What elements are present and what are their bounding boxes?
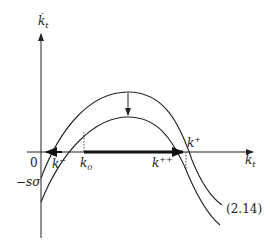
y-axis-label: ·kt — [38, 15, 49, 30]
lower-curve — [41, 117, 220, 225]
k-minus-label: k− — [52, 157, 66, 170]
x-axis-label: kt — [245, 154, 256, 169]
origin-label: 0 — [30, 157, 38, 169]
phase-diagram: ·kt kt 0 −sσ k− k0 k+ k++ (2.14) — [0, 0, 270, 243]
k-plus-label: k+ — [187, 136, 201, 149]
k0-label: k0 — [80, 157, 92, 172]
intercept-label: −sσ — [16, 176, 40, 188]
equation-ref-label: (2.14) — [226, 203, 262, 215]
k-plusplus-label: k++ — [152, 156, 173, 169]
